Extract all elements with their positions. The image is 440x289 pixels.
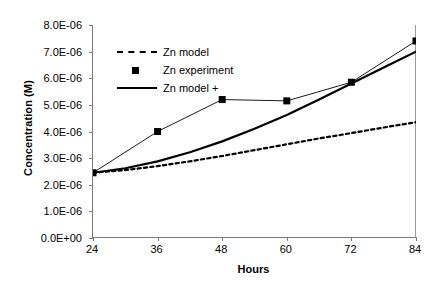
y-tick-mark [89, 25, 93, 26]
x-tick-label: 36 [150, 243, 162, 255]
legend-item-zn-experiment: Zn experiment [115, 61, 265, 79]
y-tick-label: 1.0E-06 [43, 206, 82, 217]
dashed-line-key-icon [115, 45, 159, 59]
legend-label: Zn model [159, 46, 209, 58]
data-point-marker [283, 97, 290, 104]
y-tick-label: 4.0E-06 [43, 126, 82, 137]
x-tick-mark [287, 237, 288, 241]
data-point-marker [154, 128, 161, 135]
solid-line-key-icon [115, 81, 159, 95]
x-tick-label: 84 [409, 243, 421, 255]
y-tick-mark [89, 52, 93, 53]
y-tick-label: 5.0E-06 [43, 99, 82, 110]
y-tick-label: 0.0E+00 [41, 233, 82, 244]
y-tick-label: 7.0E-06 [43, 46, 82, 57]
y-axis-tick-labels: 0.0E+001.0E-062.0E-063.0E-064.0E-065.0E-… [22, 25, 88, 238]
x-axis-title: Hours [92, 263, 415, 275]
y-tick-label: 2.0E-06 [43, 179, 82, 190]
y-tick-label: 6.0E-06 [43, 73, 82, 84]
data-point-marker [413, 37, 417, 44]
y-tick-mark [89, 185, 93, 186]
x-tick-label: 60 [280, 243, 292, 255]
y-tick-label: 3.0E-06 [43, 153, 82, 164]
x-tick-mark [222, 237, 223, 241]
legend-label: Zn experiment [159, 64, 233, 76]
y-tick-label: 8.0E-06 [43, 20, 82, 31]
x-tick-mark [351, 237, 352, 241]
chart-legend: Zn model Zn experiment Zn model + [115, 43, 265, 97]
x-tick-mark [416, 237, 417, 241]
y-tick-mark [89, 211, 93, 212]
y-tick-mark [89, 105, 93, 106]
x-tick-label: 48 [215, 243, 227, 255]
x-tick-mark [93, 237, 94, 241]
square-marker-key-icon [115, 63, 159, 77]
legend-label: Zn model + [159, 82, 218, 94]
zinc-concentration-chart: Concentration (M) 0.0E+001.0E-062.0E-063… [0, 0, 440, 289]
y-tick-mark [89, 132, 93, 133]
legend-item-zn-model: Zn model [115, 43, 265, 61]
x-tick-label: 72 [344, 243, 356, 255]
x-tick-label: 24 [86, 243, 98, 255]
data-point-marker [219, 96, 226, 103]
y-tick-mark [89, 158, 93, 159]
x-tick-mark [158, 237, 159, 241]
legend-item-zn-model-plus: Zn model + [115, 79, 265, 97]
y-tick-mark [89, 78, 93, 79]
x-axis-tick-labels: 243648607284 [92, 243, 415, 259]
